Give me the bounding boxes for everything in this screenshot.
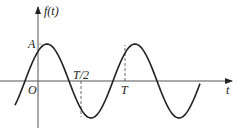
period-label: T [121, 84, 128, 96]
half-period-label: T/2 [73, 69, 89, 81]
x-axis-label: t [226, 84, 229, 96]
waveform-diagram: f(t) A O T/2 T t [0, 0, 237, 136]
y-axis-label: f(t) [44, 5, 59, 17]
amplitude-label: A [28, 38, 35, 50]
origin-label: O [28, 84, 37, 96]
waveform-plot [0, 0, 237, 136]
